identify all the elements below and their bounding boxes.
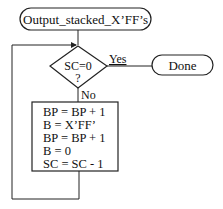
decision-diamond: SC=0 ? <box>50 46 107 88</box>
start-label: Output_stacked_X’FF’s <box>23 12 148 27</box>
process-line-2: B = X’FF’ <box>43 118 96 132</box>
process-box: BP = BP + 1 B = X’FF’ BP = BP + 1 B = 0 … <box>32 102 118 171</box>
process-line-1: BP = BP + 1 <box>43 105 106 119</box>
flowchart: Output_stacked_X’FF’s SC=0 ? Yes Done No… <box>0 0 223 209</box>
decision-question-mark: ? <box>75 71 80 85</box>
end-terminator: Done <box>152 55 213 75</box>
process-line-3: BP = BP + 1 <box>43 131 106 145</box>
no-label: No <box>81 88 96 102</box>
start-terminator: Output_stacked_X’FF’s <box>20 8 151 30</box>
yes-label: Yes <box>109 52 127 66</box>
done-label: Done <box>168 58 196 73</box>
process-line-5: SC = SC - 1 <box>43 157 104 171</box>
process-line-4: B = 0 <box>43 144 71 158</box>
